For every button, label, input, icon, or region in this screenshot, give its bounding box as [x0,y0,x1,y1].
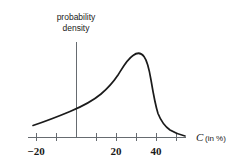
x-axis-label-unit: (in %) [205,134,226,143]
x-tick-label-40: 40 [151,145,163,157]
y-axis-label-line1: probability [57,12,96,22]
density-curve [33,53,185,136]
x-tick-label-20: 20 [111,145,123,157]
probability-density-chart: probability density −20 20 40 C (in %) [0,0,242,168]
y-axis-label-line2: density [63,23,91,33]
x-tick-label--20: −20 [27,145,45,157]
x-axis-label-symbol: C [196,131,204,143]
